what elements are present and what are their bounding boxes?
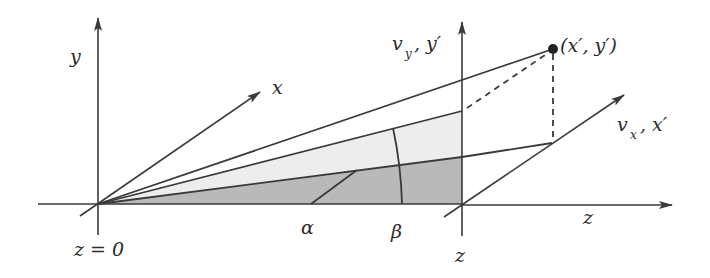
z-origin-label: z = 0	[73, 238, 124, 260]
vy-subscript: y	[404, 47, 412, 61]
projected-point	[548, 44, 558, 54]
vx-main: v	[617, 113, 628, 135]
vx-axis-label: v x , x′	[617, 113, 668, 142]
point-label: (x′, y′)	[560, 34, 617, 56]
vx-rest: , x′	[640, 113, 668, 135]
x-axis-label: x	[272, 76, 283, 98]
z-axis-label: z	[582, 206, 594, 228]
alpha-label: α	[301, 216, 314, 238]
z-plane-label: z	[454, 244, 466, 266]
beta-label: β	[390, 220, 402, 242]
vy-axis-label: v y , y′	[392, 32, 442, 61]
perspective-projection-diagram: y x z = 0 α β z z v y , y′ v x , x′ (x′,…	[0, 0, 710, 278]
vy-rest: , y′	[414, 32, 442, 54]
vx-subscript: x	[630, 128, 637, 142]
projection-line-x	[462, 143, 552, 157]
y-axis-label: y	[69, 45, 81, 67]
dashed-projection-y	[467, 53, 548, 108]
vy-main: v	[392, 32, 403, 54]
